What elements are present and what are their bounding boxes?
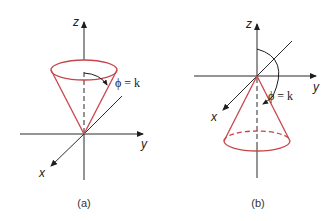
panel-b: z y x ϕ = k (b) xyxy=(194,17,320,209)
x-axis-back xyxy=(257,41,292,76)
panel-a: z y x ϕ = k (a) xyxy=(20,15,148,209)
x-axis xyxy=(223,76,257,110)
angle-label: ϕ = k xyxy=(268,89,293,103)
z-label: z xyxy=(245,17,252,31)
angle-label: ϕ = k xyxy=(115,76,140,90)
caption-b: (b) xyxy=(251,197,264,209)
figure-canvas: z y x ϕ = k (a) z y x ϕ = k (b) xyxy=(0,0,332,221)
y-label: y xyxy=(312,80,320,94)
y-label: y xyxy=(140,137,148,151)
x-axis xyxy=(51,134,84,166)
x-axis-back xyxy=(84,96,122,134)
x-label: x xyxy=(38,166,46,180)
z-label: z xyxy=(72,15,79,29)
caption-a: (a) xyxy=(77,197,90,209)
x-label: x xyxy=(210,110,218,124)
